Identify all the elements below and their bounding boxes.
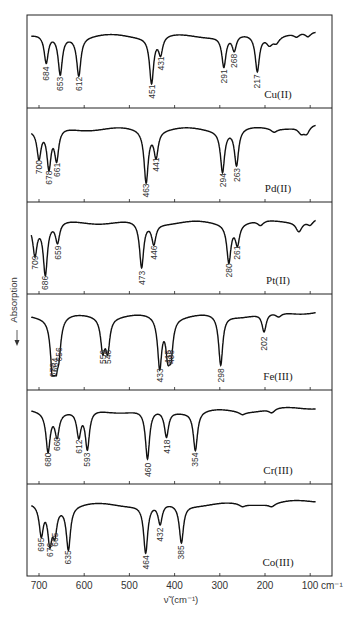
peak-label: 661 xyxy=(52,162,62,176)
peak-label: 612 xyxy=(74,439,84,453)
panel-cuii: 684653612451431291268217Cu(II) xyxy=(31,33,315,102)
peak-label: 656 xyxy=(54,347,64,361)
panel-label: Cr(III) xyxy=(263,464,293,477)
spectrum-curve xyxy=(31,125,315,183)
peak-label: 659 xyxy=(53,245,63,259)
panel-label: Cu(II) xyxy=(264,88,292,101)
peak-label: 418 xyxy=(162,439,172,453)
ir-spectra-chart: 684653612451431291268217Cu(II)7006786614… xyxy=(0,0,354,620)
x-tick-label: 700 xyxy=(31,580,48,591)
panel-label: Pd(II) xyxy=(265,182,292,195)
peak-label: 385 xyxy=(176,545,186,559)
spectrum-curve xyxy=(31,313,315,376)
x-tick-label: 400 xyxy=(166,580,183,591)
peak-label: 684 xyxy=(41,66,51,80)
panel-label: Pt(II) xyxy=(266,274,290,287)
peak-label: 460 xyxy=(143,463,153,477)
peak-label: 686 xyxy=(40,276,50,290)
peak-label: 451 xyxy=(147,84,157,98)
y-axis-arrow-head xyxy=(15,340,20,346)
peak-label: 548 xyxy=(103,350,113,364)
peak-label: 263 xyxy=(232,168,242,182)
peak-label: 473 xyxy=(137,271,147,285)
peak-label: 665 xyxy=(50,532,60,546)
peak-label: 202 xyxy=(259,336,269,350)
peak-label: 268 xyxy=(229,54,239,68)
x-tick-label: 500 xyxy=(121,580,138,591)
peak-label: 431 xyxy=(156,56,166,70)
peak-label: 700 xyxy=(34,160,44,174)
peak-label: 432 xyxy=(155,527,165,541)
peak-label: 635 xyxy=(63,550,73,564)
x-tick-label: 100 cm⁻¹ xyxy=(302,580,344,591)
peak-label: 660 xyxy=(52,437,62,451)
peak-label: 464 xyxy=(141,555,151,569)
peak-label: 709 xyxy=(30,255,40,269)
peak-label: 446 xyxy=(149,245,159,259)
peak-label: 680 xyxy=(43,452,53,466)
peak-label: 217 xyxy=(252,74,262,88)
peak-label: 408 xyxy=(166,350,176,364)
peak-label: 653 xyxy=(55,77,65,91)
x-tick-label: 200 xyxy=(257,580,274,591)
peak-label: 280 xyxy=(224,263,234,277)
panel-coiii: 695676665635464432385Co(III) xyxy=(31,501,315,570)
peak-label: 294 xyxy=(218,173,228,187)
peak-label: 433 xyxy=(155,368,165,382)
peak-label: 291 xyxy=(219,69,229,83)
x-axis-title: ν̃ (cm⁻¹) xyxy=(164,594,199,605)
peak-label: 612 xyxy=(74,77,84,91)
peak-label: 441 xyxy=(151,157,161,171)
panel-label: Fe(III) xyxy=(263,370,293,383)
y-axis-title: Absorption xyxy=(8,277,19,322)
x-tick-label: 600 xyxy=(76,580,93,591)
panel-label: Co(III) xyxy=(262,556,293,569)
peak-label: 593 xyxy=(82,452,92,466)
spectrum-curve xyxy=(31,501,315,554)
spectrum-curve xyxy=(31,33,315,85)
panel-ptii: 709686659473446280261Pt(II) xyxy=(30,220,316,290)
x-tick-label: 300 xyxy=(211,580,228,591)
peak-label: 261 xyxy=(232,245,242,259)
panel-criii: 680660612593460418354Cr(III) xyxy=(31,408,315,478)
panel-pdii: 700678661463441294263Pd(II) xyxy=(31,125,315,197)
panel-feiii: 670664656559548433415408298202Fe(III) xyxy=(31,313,315,383)
peak-label: 298 xyxy=(216,368,226,382)
spectrum-curve xyxy=(31,220,315,276)
peak-label: 463 xyxy=(141,183,151,197)
peak-label: 354 xyxy=(190,452,200,466)
